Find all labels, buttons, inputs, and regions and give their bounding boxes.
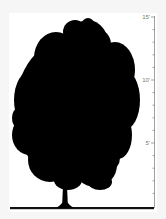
scale-label: 10' — [142, 77, 150, 83]
tree-canopy — [12, 18, 140, 190]
height-scale — [151, 16, 155, 208]
tree-diagram — [0, 0, 166, 219]
scale-label: 5' — [146, 140, 150, 146]
ground-line — [10, 207, 154, 209]
scale-label: 15' — [142, 14, 150, 20]
